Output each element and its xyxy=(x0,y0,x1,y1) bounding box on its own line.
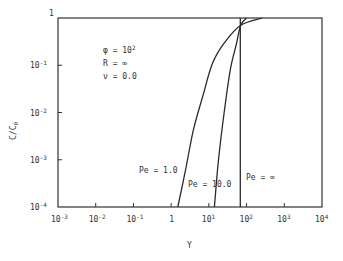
x-tick-label: 10-1 xyxy=(126,213,143,224)
y-tick-label: 10-1 xyxy=(30,59,47,70)
curve-1 xyxy=(214,18,246,207)
x-tick-label: 102 xyxy=(240,213,254,224)
x-tick-label: 104 xyxy=(315,213,329,224)
x-tick-label: 10-3 xyxy=(51,213,68,224)
curve-label-pe-10: Pe = 10.0 xyxy=(188,180,232,189)
y-tick-label: 10-3 xyxy=(30,154,47,165)
y-tick-label: 10-4 xyxy=(30,201,47,212)
chart: 10-310-210-11101102103104 110-110-210-31… xyxy=(0,0,343,261)
x-axis-title: Y xyxy=(187,241,192,250)
parameter-line: ν = 0.0 xyxy=(103,72,137,81)
plot-frame xyxy=(58,18,322,207)
x-axis-ticks: 10-310-210-11101102103104 xyxy=(51,203,329,224)
parameter-annotation: φ = 102R = ∞ν = 0.0 xyxy=(103,44,137,81)
x-tick-label: 1 xyxy=(169,215,174,224)
parameter-line: φ = 102 xyxy=(103,44,136,55)
parameter-line: R = ∞ xyxy=(103,59,127,68)
curve-label-pe-inf: Pe = ∞ xyxy=(246,173,275,182)
y-axis-title: C/C0 xyxy=(9,122,19,140)
x-tick-label: 103 xyxy=(277,213,291,224)
x-tick-label: 101 xyxy=(202,213,216,224)
svg-text:C/C0: C/C0 xyxy=(9,122,19,140)
x-tick-label: 10-2 xyxy=(89,213,106,224)
y-tick-label: 10-2 xyxy=(30,107,47,118)
y-axis-ticks: 110-110-210-310-4 xyxy=(30,9,62,212)
curve-label-pe-1: Pe = 1.0 xyxy=(139,166,178,175)
y-tick-label: 1 xyxy=(49,9,54,18)
